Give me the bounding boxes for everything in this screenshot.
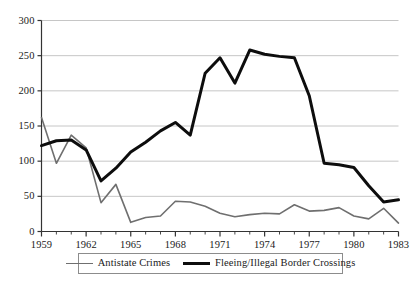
- series-lines: [42, 50, 399, 223]
- legend-label: Antistate Crimes: [98, 258, 170, 269]
- legend-label: Fleeing/Illegal Border Crossings: [215, 258, 355, 269]
- legend-item-antistate-crimes: Antistate Crimes: [66, 258, 170, 269]
- y-tick-label-200: 200: [18, 86, 34, 97]
- x-tick-label-1968: 1968: [165, 240, 186, 251]
- x-tick-label-1965: 1965: [120, 240, 141, 251]
- chart-legend: Antistate CrimesFleeing/Illegal Border C…: [78, 253, 343, 274]
- y-tick-label-100: 100: [18, 156, 34, 167]
- y-tick-label-50: 50: [24, 191, 35, 202]
- x-tick-label-1971: 1971: [209, 240, 230, 251]
- y-tick-label-150: 150: [18, 121, 34, 132]
- x-tick-label-1980: 1980: [343, 240, 364, 251]
- legend-item-border-crossings: Fleeing/Illegal Border Crossings: [183, 258, 355, 269]
- x-tick-label-1983: 1983: [388, 240, 409, 251]
- x-tick-label-1959: 1959: [31, 240, 52, 251]
- legend-swatch-icon: [183, 262, 210, 265]
- x-tick-label-1962: 1962: [75, 240, 96, 251]
- legend-swatch-icon: [66, 263, 93, 264]
- x-tick-marks: [42, 232, 399, 237]
- y-tick-label-300: 300: [18, 15, 34, 26]
- x-tick-label-1977: 1977: [299, 240, 320, 251]
- line-chart-figure: 050100150200250300 195919621965196819711…: [0, 0, 419, 285]
- x-tick-label-1974: 1974: [254, 240, 275, 251]
- y-tick-label-250: 250: [18, 50, 34, 61]
- y-tick-label-0: 0: [29, 226, 34, 237]
